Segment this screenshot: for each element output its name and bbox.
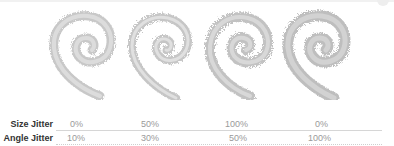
value-cell: 50% — [141, 118, 159, 130]
value-cell: 30% — [141, 132, 159, 144]
size-jitter-row: Size Jitter 0% 50% 100% 0% — [0, 118, 394, 132]
row-label: Angle Jitter — [3, 132, 53, 144]
value-cell: 0% — [70, 118, 83, 130]
spiral-sample-3 — [204, 8, 276, 100]
top-divider — [0, 0, 394, 2]
value-cell: 100% — [308, 132, 331, 144]
row-label: Size Jitter — [10, 118, 53, 130]
value-cell: 10% — [67, 132, 85, 144]
angle-jitter-row: Angle Jitter 10% 30% 50% 100% — [0, 132, 394, 146]
spiral-sample-2 — [126, 8, 198, 100]
spiral-sample-4 — [282, 8, 354, 100]
jitter-table: Size Jitter 0% 50% 100% 0% Angle Jitter … — [0, 118, 394, 146]
row-divider — [56, 130, 382, 131]
corner-indicator — [377, 0, 389, 6]
value-cell: 0% — [315, 118, 328, 130]
value-cell: 50% — [229, 132, 247, 144]
value-cell: 100% — [225, 118, 248, 130]
row-divider — [56, 144, 382, 145]
spiral-sample-1 — [48, 8, 120, 100]
